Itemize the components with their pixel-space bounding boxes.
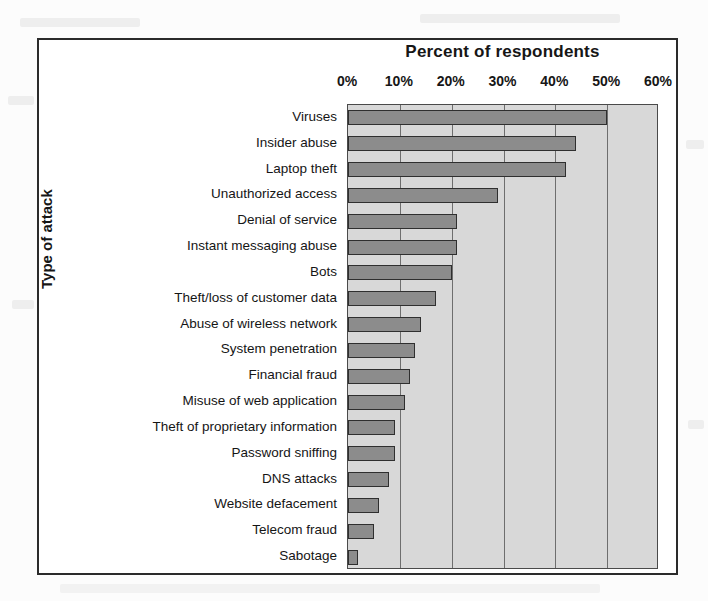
bar <box>348 317 421 332</box>
category-label: Unauthorized access <box>211 186 337 201</box>
x-axis-tick-labels: 0%10%20%30%40%50%60% <box>347 73 658 93</box>
bar <box>348 291 436 306</box>
bar <box>348 162 566 177</box>
bar <box>348 498 379 513</box>
x-tick-label-10: 10% <box>385 73 413 89</box>
x-tick-label-0: 0% <box>337 73 357 89</box>
category-label: Theft of proprietary information <box>152 419 337 434</box>
category-label: Sabotage <box>279 548 337 563</box>
bar <box>348 395 405 410</box>
x-tick-label-30: 30% <box>488 73 516 89</box>
bar <box>348 343 415 358</box>
x-tick-label-20: 20% <box>437 73 465 89</box>
bar <box>348 136 576 151</box>
y-axis-title: Type of attack <box>38 271 55 289</box>
bar <box>348 265 452 280</box>
category-label: Misuse of web application <box>182 393 337 408</box>
x-tick-label-50: 50% <box>592 73 620 89</box>
category-label: Insider abuse <box>256 135 337 150</box>
category-label: Telecom fraud <box>252 522 337 537</box>
category-label: System penetration <box>221 341 337 356</box>
bar <box>348 420 395 435</box>
category-label: Theft/loss of customer data <box>174 290 337 305</box>
category-label: Viruses <box>292 109 337 124</box>
category-label: Password sniffing <box>231 445 337 460</box>
bar <box>348 446 395 461</box>
bars-layer <box>348 105 657 568</box>
bar <box>348 110 607 125</box>
category-label: Laptop theft <box>266 161 337 176</box>
category-label: Abuse of wireless network <box>180 316 337 331</box>
chart-title: Percent of respondents <box>347 42 658 62</box>
bar <box>348 240 457 255</box>
x-tick-label-60: 60% <box>644 73 672 89</box>
bar <box>348 188 498 203</box>
bar <box>348 369 410 384</box>
category-label: DNS attacks <box>262 471 337 486</box>
y-axis-category-labels: VirusesInsider abuseLaptop theftUnauthor… <box>60 104 343 569</box>
category-label: Instant messaging abuse <box>187 238 337 253</box>
bar <box>348 550 358 565</box>
plot-area <box>347 104 658 569</box>
category-label: Website defacement <box>214 496 337 511</box>
category-label: Denial of service <box>237 212 337 227</box>
category-label: Financial fraud <box>248 367 337 382</box>
bar <box>348 524 374 539</box>
bar <box>348 472 389 487</box>
category-label: Bots <box>310 264 337 279</box>
bar <box>348 214 457 229</box>
x-tick-label-40: 40% <box>540 73 568 89</box>
